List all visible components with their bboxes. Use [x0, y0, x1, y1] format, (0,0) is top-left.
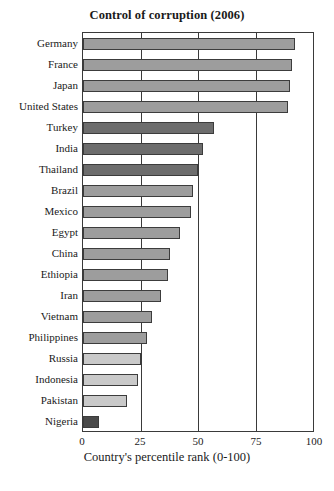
bar-row: [83, 33, 313, 54]
bar: [83, 332, 147, 344]
category-label-row: Brazil: [0, 179, 78, 200]
bar: [83, 269, 168, 281]
bar-row: [83, 349, 313, 370]
x-tick-label-25: 25: [135, 434, 146, 448]
bar: [83, 395, 127, 407]
category-label-japan: Japan: [53, 79, 78, 91]
bar: [83, 311, 152, 323]
category-label-row: Ethiopia: [0, 264, 78, 285]
x-tick-label-100: 100: [306, 434, 323, 448]
category-label-pakistan: Pakistan: [41, 394, 78, 406]
bar-row: [83, 391, 313, 412]
category-label-row: France: [0, 53, 78, 74]
category-label-turkey: Turkey: [47, 121, 78, 133]
category-label-row: Mexico: [0, 200, 78, 221]
chart-title: Control of corruption (2006): [0, 8, 334, 23]
bar-row: [83, 243, 313, 264]
bar: [83, 143, 203, 155]
bar: [83, 80, 290, 92]
category-label-row: Pakistan: [0, 390, 78, 411]
bars-container: [83, 33, 313, 431]
bar: [83, 122, 214, 134]
category-label-brazil: Brazil: [51, 184, 78, 196]
category-label-mexico: Mexico: [44, 205, 78, 217]
bar-row: [83, 159, 313, 180]
category-label-row: Iran: [0, 285, 78, 306]
bar-row: [83, 412, 313, 433]
category-label-row: Thailand: [0, 158, 78, 179]
category-label-row: Russia: [0, 348, 78, 369]
bar: [83, 101, 288, 113]
category-label-germany: Germany: [37, 37, 78, 49]
bar: [83, 353, 141, 365]
bar-row: [83, 307, 313, 328]
category-label-row: Nigeria: [0, 411, 78, 432]
bar-row: [83, 75, 313, 96]
bar: [83, 290, 161, 302]
plot-area: [82, 32, 314, 432]
category-label-row: Japan: [0, 74, 78, 95]
bar: [83, 374, 138, 386]
bar: [83, 416, 99, 428]
x-tick-label-50: 50: [193, 434, 204, 448]
bar-row: [83, 96, 313, 117]
bar: [83, 248, 170, 260]
category-label-thailand: Thailand: [39, 163, 78, 175]
category-label-indonesia: Indonesia: [35, 373, 78, 385]
cut-off-source-line: [18, 484, 318, 491]
category-label-nigeria: Nigeria: [45, 415, 78, 427]
bar-row: [83, 370, 313, 391]
category-label-china: China: [52, 247, 78, 259]
category-axis-labels: GermanyFranceJapanUnited StatesTurkeyInd…: [0, 32, 78, 432]
category-label-row: Vietnam: [0, 306, 78, 327]
category-label-row: Turkey: [0, 116, 78, 137]
category-label-france: France: [48, 58, 78, 70]
bar: [83, 59, 292, 71]
category-label-row: India: [0, 137, 78, 158]
category-label-ethiopia: Ethiopia: [41, 268, 78, 280]
bar-row: [83, 117, 313, 138]
bar-row: [83, 138, 313, 159]
bar-row: [83, 286, 313, 307]
category-label-united-states: United States: [19, 100, 78, 112]
category-label-row: Germany: [0, 32, 78, 53]
x-axis-title: Country's percentile rank (0-100): [0, 450, 334, 465]
category-label-row: Philippines: [0, 327, 78, 348]
bar: [83, 185, 193, 197]
category-label-russia: Russia: [49, 352, 78, 364]
category-label-row: United States: [0, 95, 78, 116]
category-label-egypt: Egypt: [52, 226, 78, 238]
bar: [83, 38, 295, 50]
category-label-row: Egypt: [0, 221, 78, 242]
bar-row: [83, 222, 313, 243]
bar-row: [83, 265, 313, 286]
x-tick-label-75: 75: [251, 434, 262, 448]
category-label-row: China: [0, 242, 78, 263]
bar: [83, 164, 198, 176]
category-label-india: India: [55, 142, 78, 154]
bar-row: [83, 201, 313, 222]
bar: [83, 206, 191, 218]
category-label-vietnam: Vietnam: [41, 310, 78, 322]
bar-row: [83, 54, 313, 75]
bar: [83, 227, 180, 239]
category-label-iran: Iran: [60, 289, 78, 301]
x-tick-label-0: 0: [79, 434, 85, 448]
x-axis-tick-labels: 0255075100: [82, 434, 314, 450]
category-label-row: Indonesia: [0, 369, 78, 390]
category-label-philippines: Philippines: [28, 331, 78, 343]
chart-figure: Control of corruption (2006) GermanyFran…: [0, 0, 334, 491]
bar-row: [83, 328, 313, 349]
bar-row: [83, 180, 313, 201]
